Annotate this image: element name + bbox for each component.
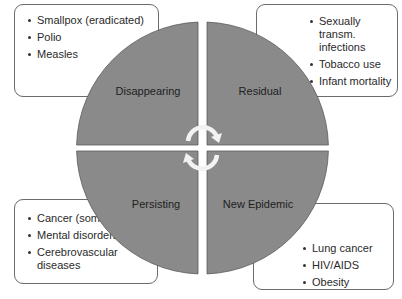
quadrant-new-epidemic	[207, 151, 328, 274]
quadrant-label-persisting: Persisting	[132, 198, 180, 210]
quadrant-persisting	[77, 151, 198, 274]
cycle-arrows-icon	[183, 127, 222, 169]
quadrant-label-disappearing: Disappearing	[116, 85, 181, 97]
quadrant-circle-diagram: Disappearing Residual Persisting New Epi…	[0, 0, 402, 299]
quadrant-label-new-epidemic: New Epidemic	[223, 198, 294, 210]
quadrant-label-residual: Residual	[239, 85, 282, 97]
quadrant-disappearing	[77, 22, 198, 145]
quadrant-residual	[207, 22, 328, 145]
